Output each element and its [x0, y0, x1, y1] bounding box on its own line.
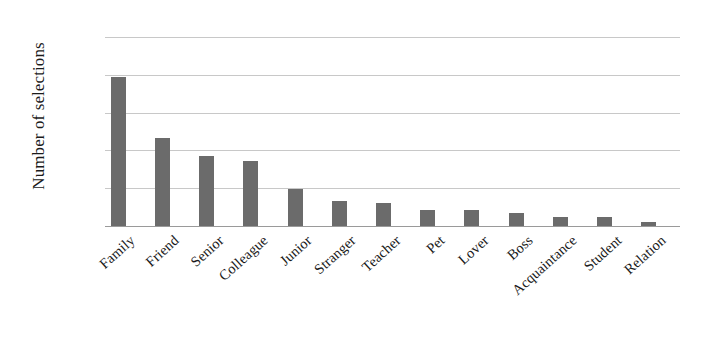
gridline: [105, 188, 680, 189]
bar: [464, 210, 479, 226]
axis-baseline: [105, 226, 680, 227]
x-tick-label: Teacher: [358, 232, 404, 276]
x-tick-label: Family: [96, 232, 138, 273]
bar: [243, 161, 258, 226]
bar: [641, 222, 656, 226]
x-tick-label: Boss: [504, 232, 537, 264]
bar: [111, 77, 126, 226]
x-tick-label: Senior: [187, 232, 227, 270]
gridline: [105, 113, 680, 114]
gridline: [105, 75, 680, 76]
x-tick-label: Lover: [455, 232, 492, 268]
bar: [553, 217, 568, 226]
bar: [376, 203, 391, 226]
bar: [420, 210, 435, 226]
bar: [155, 138, 170, 226]
x-tick-label: Relation: [621, 232, 669, 278]
bar: [597, 217, 612, 226]
bar: [199, 156, 214, 226]
y-axis-title: Number of selections: [29, 11, 49, 221]
bar: [332, 201, 347, 226]
x-tick-label: Junior: [277, 232, 316, 269]
x-tick-label: Pet: [423, 232, 448, 257]
gridline: [105, 150, 680, 151]
x-tick-label: Student: [580, 232, 625, 275]
gridline: [105, 37, 680, 38]
bar: [509, 213, 524, 226]
x-tick-label: Stranger: [311, 232, 359, 278]
chart-figure: Number of selections 01,0002,0003,0004,0…: [0, 0, 705, 355]
bar: [288, 189, 303, 226]
x-tick-label: Friend: [143, 232, 183, 270]
plot-area: [105, 37, 680, 226]
